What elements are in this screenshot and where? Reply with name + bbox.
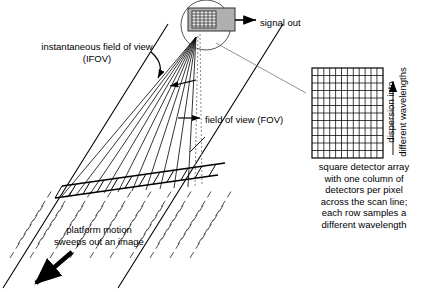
platform-motion-label: platform motion sweeps out an image	[36, 224, 162, 248]
signal-out-label: signal out	[260, 17, 301, 29]
detector-array	[312, 68, 383, 158]
fov-label: field of view (FOV)	[205, 114, 283, 126]
dispersion-label: dispersion into different wavelengths	[385, 52, 409, 172]
dispersion-label-wrapper: dispersion into different wavelengths	[385, 0, 409, 52]
ifov-label: instantaneous field of view (IFOV)	[26, 41, 168, 65]
sensor-diagram: instantaneous field of view (IFOV) field…	[0, 0, 438, 292]
detector-array-caption: square detector array with one column of…	[291, 161, 437, 231]
